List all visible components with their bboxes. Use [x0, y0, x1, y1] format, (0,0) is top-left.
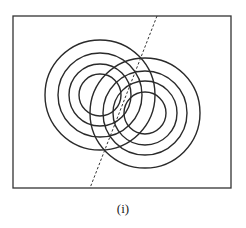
figure-caption: (i) [0, 201, 246, 217]
dashed-nodal-line [90, 16, 157, 188]
right-source-concentric-circles [90, 58, 200, 168]
left-source-ring-2 [58, 53, 142, 137]
right-source-ring-3 [113, 81, 177, 145]
right-source-ring-2 [103, 71, 187, 155]
interference-diagram [0, 0, 246, 228]
right-source-ring-1 [90, 58, 200, 168]
